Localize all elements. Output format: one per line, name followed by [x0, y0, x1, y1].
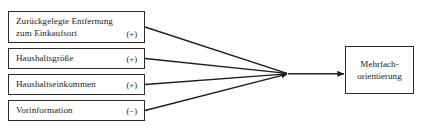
antecedent-label-line2: zum Einkaufsort	[16, 28, 77, 38]
antecedent-sign-household-income: (+)	[126, 80, 137, 90]
antecedent-box-household-size[interactable]: Haushaltsgröße (+)	[8, 48, 145, 69]
antecedent-inner: Haushaltsgröße (+)	[9, 49, 144, 68]
antecedent-inner: Vorinformation (−)	[9, 101, 144, 120]
path-diagram: Zurückgelegte Entfernung zum Einkaufsort…	[0, 0, 424, 133]
antecedent-sign-prior-information: (−)	[126, 106, 137, 116]
antecedent-box-prior-information[interactable]: Vorinformation (−)	[8, 100, 145, 121]
antecedent-box-household-income[interactable]: Haushaltseinkommen (+)	[8, 74, 145, 95]
antecedent-label-line1: Zurückgelegte Entfernung	[16, 16, 113, 26]
antecedent-sign-distance: (+)	[126, 29, 137, 39]
antecedent-inner: Zurückgelegte Entfernung zum Einkaufsort…	[9, 12, 144, 42]
antecedent-box-distance[interactable]: Zurückgelegte Entfernung zum Einkaufsort…	[8, 11, 145, 43]
antecedent-label-prior-information: Vorinformation	[16, 105, 118, 117]
antecedent-label-household-size: Haushaltsgröße	[16, 53, 118, 65]
antecedent-sign-household-size: (+)	[126, 54, 137, 64]
antecedent-label-distance: Zurückgelegte Entfernung zum Einkaufsort	[16, 16, 118, 39]
outcome-label: Mehrfach- orientierung	[354, 58, 404, 83]
outcome-label-line2: orientierung	[357, 70, 401, 82]
outcome-box-multi-orientation[interactable]: Mehrfach- orientierung	[345, 46, 414, 94]
outcome-label-line1: Mehrfach-	[357, 58, 401, 70]
antecedent-label-household-income: Haushaltseinkommen	[16, 79, 118, 91]
antecedent-inner: Haushaltseinkommen (+)	[9, 75, 144, 94]
